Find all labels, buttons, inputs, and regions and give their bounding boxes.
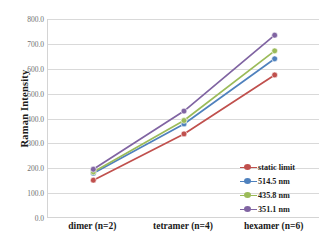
y-axis-tick-labels: 0.0100.0200.0300.0400.0500.0600.0700.080…	[6, 14, 44, 218]
data-point[interactable]	[272, 56, 278, 62]
y-axis-tick-label: 700.0	[6, 39, 44, 48]
data-point[interactable]	[90, 177, 96, 183]
y-axis-tick-label: 800.0	[6, 15, 44, 24]
legend-label: 435.8 nm	[257, 191, 290, 200]
legend-marker-icon	[240, 190, 257, 200]
legend-marker-icon	[240, 162, 257, 172]
legend-label: 514.5 nm	[257, 177, 290, 186]
x-axis-category-label: hexamer (n=6)	[244, 221, 303, 231]
y-axis-tick-label: 100.0	[6, 189, 44, 198]
x-axis-tick-labels: dimer (n=2)tetramer (n=4)hexamer (n=6)	[47, 221, 319, 239]
y-axis-tick-label: 400.0	[6, 114, 44, 123]
legend-item[interactable]: 351.1 nm	[240, 202, 324, 216]
data-point[interactable]	[181, 131, 187, 137]
legend-item[interactable]: static limit	[240, 160, 324, 174]
legend-item[interactable]: 435.8 nm	[240, 188, 324, 202]
legend: static limit514.5 nm435.8 nm351.1 nm	[240, 160, 324, 216]
data-point[interactable]	[181, 108, 187, 114]
series-line	[93, 35, 274, 169]
data-point[interactable]	[181, 118, 187, 124]
legend-item[interactable]: 514.5 nm	[240, 174, 324, 188]
data-point[interactable]	[90, 166, 96, 172]
y-axis-tick-label: 200.0	[6, 164, 44, 173]
y-axis-tick-label: 600.0	[6, 64, 44, 73]
y-axis-tick-label: 500.0	[6, 89, 44, 98]
data-point[interactable]	[272, 48, 278, 54]
legend-label: static limit	[257, 163, 295, 172]
y-axis-tick-label: 300.0	[6, 139, 44, 148]
data-point[interactable]	[272, 32, 278, 38]
x-axis-category-label: dimer (n=2)	[68, 221, 116, 231]
x-axis-category-label: tetramer (n=4)	[153, 221, 213, 231]
legend-marker-icon	[240, 176, 257, 186]
legend-label: 351.1 nm	[257, 205, 290, 214]
data-point[interactable]	[272, 72, 278, 78]
legend-marker-icon	[240, 204, 257, 214]
y-axis-tick-label: 0.0	[6, 214, 44, 223]
chart-container: Raman Intensity 0.0100.0200.0300.0400.05…	[0, 0, 328, 245]
